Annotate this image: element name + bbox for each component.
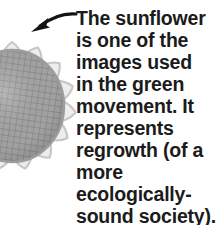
figure-caption-text: The sunflower is one of the images used … <box>76 7 218 225</box>
pointer-arrow-icon <box>26 6 78 38</box>
sunflower-caption-figure: The sunflower is one of the images used … <box>0 0 221 225</box>
